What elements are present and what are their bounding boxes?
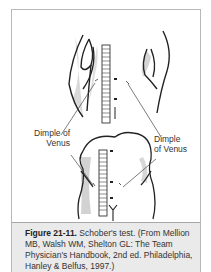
label-right-line2: of Venus [154, 144, 204, 154]
label-left-line1: Dimple of [24, 128, 70, 138]
figure-caption: Figure 21-11. Schober's test. (From Mell… [11, 222, 201, 272]
schober-test-illustration [11, 9, 201, 222]
label-right-line1: Dimple [154, 134, 204, 144]
label-dimple-of-venus-left: Dimple of Venus [24, 128, 70, 148]
upper-back-drawing [69, 31, 169, 117]
label-left-line2: Venus [24, 138, 70, 148]
lower-ruler [93, 150, 121, 221]
figure-number: Figure 21-11. [25, 228, 77, 238]
upper-ruler [95, 45, 129, 123]
label-dimple-of-venus-right: Dimple of Venus [154, 134, 204, 154]
